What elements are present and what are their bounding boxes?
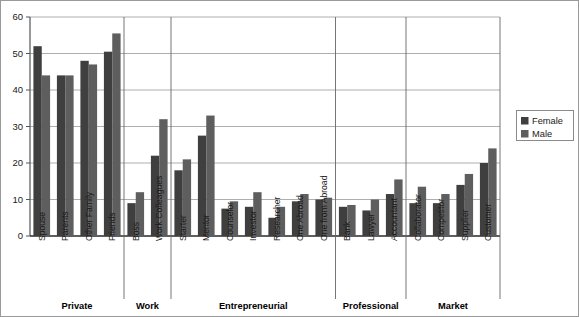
group-label: Work <box>136 301 160 311</box>
x-category-label: Parents <box>60 211 70 241</box>
y-tick-label: 0 <box>18 230 23 241</box>
x-category-label: Other Family <box>84 191 94 241</box>
y-tick-label: 50 <box>12 48 23 59</box>
y-tick-label: 40 <box>12 84 23 95</box>
x-category-label: Collaborator <box>413 194 423 241</box>
bar-female-3 <box>104 52 112 236</box>
x-category-label: Competitor <box>436 199 446 241</box>
y-tick-label: 60 <box>12 11 23 22</box>
x-category-label: One from Abroad <box>319 175 329 241</box>
x-category-label: Lawyer <box>366 213 376 241</box>
legend: FemaleMale <box>517 111 574 141</box>
legend-swatch-female <box>521 117 529 125</box>
x-category-label: Investor <box>248 210 258 241</box>
x-category-label: Bank <box>342 221 352 241</box>
legend-swatch-male <box>521 130 529 138</box>
x-category-label: Starter <box>178 215 188 241</box>
y-tick-label: 20 <box>12 157 23 168</box>
x-category-label: Supplier <box>460 209 470 241</box>
x-category-label: Counselor <box>225 202 235 241</box>
x-category-label: Work Colleagues <box>154 176 164 241</box>
y-tick-label: 10 <box>12 194 23 205</box>
x-category-label: Boss <box>131 222 141 241</box>
bar-male-3 <box>112 33 120 236</box>
group-label: Market <box>438 301 468 311</box>
x-category-label: Spouse <box>37 212 47 241</box>
group-label: Private <box>61 301 92 311</box>
group-label: Entrepreneurial <box>219 301 288 311</box>
x-category-label: Researcher <box>272 196 282 241</box>
x-category-label: Accountant <box>389 197 399 241</box>
x-category-label: One Abroad <box>295 195 305 241</box>
x-category-label: Customer <box>483 204 493 241</box>
x-category-label: Friends <box>107 212 117 241</box>
bar-chart-figure: 0102030405060SpouseParentsOther FamilyFr… <box>0 0 579 317</box>
group-label: Professional <box>343 301 399 311</box>
legend-label-male: Male <box>532 129 552 139</box>
x-category-label: Mentor <box>201 214 211 241</box>
chart-canvas: 0102030405060SpouseParentsOther FamilyFr… <box>0 0 579 317</box>
y-tick-label: 30 <box>12 121 23 132</box>
legend-label-female: Female <box>532 116 563 126</box>
bar-female-0 <box>33 46 41 236</box>
